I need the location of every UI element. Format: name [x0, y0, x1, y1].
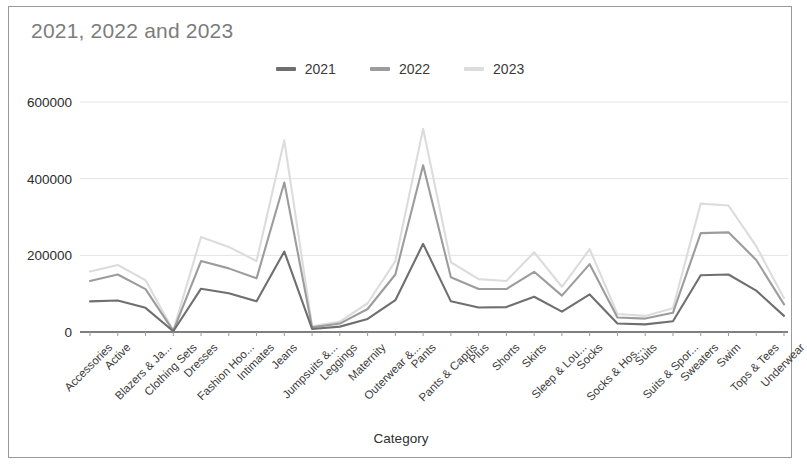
y-tick-label: 0: [9, 325, 72, 340]
line-chart-svg: [9, 7, 793, 459]
y-tick-label: 200000: [9, 248, 72, 263]
y-tick-label: 600000: [9, 95, 72, 110]
chart-card: 2021, 2022 and 2023 2021 2022 2023 02000…: [8, 6, 792, 458]
x-axis-title: Category: [9, 431, 793, 446]
y-tick-label: 400000: [9, 171, 72, 186]
plot-area: 0200000400000600000 AccessoriesActiveBla…: [9, 7, 793, 459]
series-line-2022: [90, 165, 784, 331]
